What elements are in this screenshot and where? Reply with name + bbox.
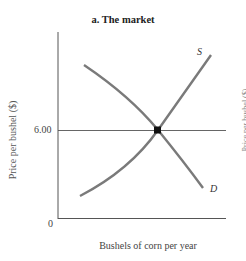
- demand-label: D: [209, 183, 218, 194]
- plot-area: S D: [0, 0, 246, 261]
- demand-curve: [84, 65, 203, 188]
- supply-label: S: [197, 46, 202, 57]
- equilibrium-point: [154, 127, 161, 134]
